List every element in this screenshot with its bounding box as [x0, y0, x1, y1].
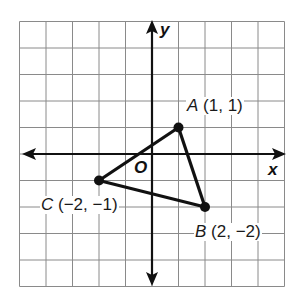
point-a-coords: (1, 1)	[203, 96, 243, 115]
vertex-b-dot-icon	[200, 202, 210, 212]
point-c-name: C	[41, 195, 53, 214]
point-c-label: C (−2, −1)	[40, 196, 119, 214]
origin-label: O	[134, 159, 147, 176]
coordinate-plane	[0, 0, 299, 301]
vertex-c-dot-icon	[94, 176, 104, 186]
point-b-name: B	[195, 222, 206, 241]
vertex-a-dot-icon	[174, 123, 184, 133]
point-b-label: B (2, −2)	[194, 223, 262, 241]
x-axis-label: x	[268, 161, 277, 178]
point-c-coords: (−2, −1)	[58, 195, 118, 214]
y-axis-label: y	[160, 21, 169, 38]
axes	[22, 20, 286, 286]
point-b-coords: (2, −2)	[211, 222, 261, 241]
side-ab	[179, 128, 206, 208]
point-a-name: A	[187, 96, 198, 115]
point-a-label: A (1, 1)	[186, 97, 244, 115]
